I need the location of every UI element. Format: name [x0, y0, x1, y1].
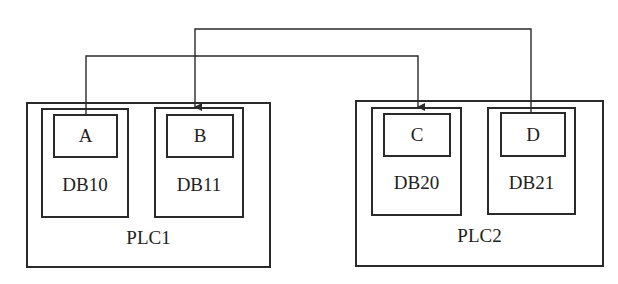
db21-label: DB21 — [487, 172, 576, 194]
variable-b-box: B — [166, 114, 234, 158]
plc2-label: PLC2 — [355, 225, 604, 247]
variable-b-label: B — [194, 125, 207, 147]
db11-label: DB11 — [154, 174, 244, 196]
variable-c-label: C — [411, 124, 424, 146]
variable-a-label: A — [79, 125, 93, 147]
variable-a-box: A — [53, 114, 118, 158]
db10-label: DB10 — [41, 174, 129, 196]
plc1-label: PLC1 — [26, 227, 271, 249]
variable-c-box: C — [383, 113, 451, 157]
variable-d-box: D — [500, 112, 566, 157]
db20-label: DB20 — [371, 172, 462, 194]
variable-d-label: D — [526, 124, 540, 146]
